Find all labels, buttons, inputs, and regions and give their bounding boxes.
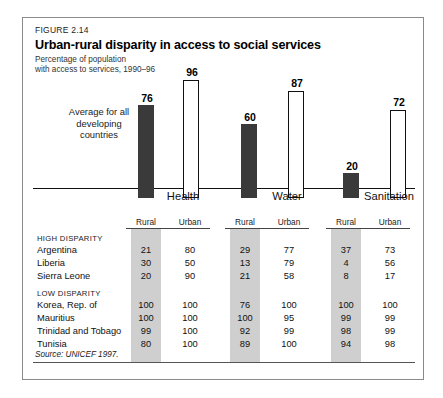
cell-trinidad-sanitation-urban: 99 — [375, 326, 405, 336]
chart-group-label-sanitation: Sanitation — [329, 190, 443, 202]
bar-value-health-rural: 76 — [130, 92, 164, 104]
cell-argentina-sanitation-rural: 37 — [331, 245, 361, 255]
cell-korea-sanitation-urban: 100 — [375, 300, 405, 310]
data-table: Rural Urban Rural Urban Rural Urban HIGH… — [23, 204, 425, 380]
cell-argentina-water-urban: 77 — [274, 245, 304, 255]
bar-value-water-urban: 87 — [280, 77, 314, 89]
cell-argentina-health-urban: 80 — [175, 245, 205, 255]
cell-mauritius-health-rural: 100 — [131, 313, 161, 323]
chart-annotation-average: Average for all developing countries — [53, 106, 145, 141]
cell-trinidad-water-urban: 99 — [274, 326, 304, 336]
cell-sierra-leone-health-urban: 90 — [175, 271, 205, 281]
cell-mauritius-sanitation-urban: 99 — [375, 313, 405, 323]
cell-liberia-health-rural: 30 — [131, 258, 161, 268]
bar-chart: Average for all developing countries 76 … — [23, 18, 425, 198]
bar-health-rural: 76 — [138, 105, 154, 198]
cell-liberia-health-urban: 50 — [175, 258, 205, 268]
cell-sierra-leone-water-urban: 58 — [274, 271, 304, 281]
section-label-low-disparity: LOW DISPARITY — [37, 289, 101, 298]
cell-mauritius-sanitation-rural: 99 — [331, 313, 361, 323]
cell-korea-health-urban: 100 — [175, 300, 205, 310]
column-header-water-rural: Rural — [223, 217, 267, 227]
cell-korea-sanitation-rural: 100 — [331, 300, 361, 310]
column-header-health-rural: Rural — [124, 217, 168, 227]
cell-tunisia-health-urban: 100 — [175, 339, 205, 349]
section-label-high-disparity: HIGH DISPARITY — [37, 234, 103, 243]
bar-value-water-rural: 60 — [233, 111, 267, 123]
table-row-country-korea: Korea, Rep. of — [37, 300, 97, 310]
cell-trinidad-health-urban: 100 — [175, 326, 205, 336]
cell-liberia-sanitation-rural: 4 — [331, 258, 361, 268]
cell-liberia-water-rural: 13 — [230, 258, 260, 268]
source-rule — [33, 362, 415, 363]
cell-mauritius-health-urban: 100 — [175, 313, 205, 323]
cell-argentina-health-rural: 21 — [131, 245, 161, 255]
bar-sanitation-urban: 72 — [390, 110, 406, 198]
bar-water-urban: 87 — [288, 91, 304, 198]
table-row-country-liberia: Liberia — [37, 258, 65, 268]
bar-water-rural: 60 — [241, 124, 257, 198]
cell-tunisia-water-urban: 100 — [274, 339, 304, 349]
cell-sierra-leone-water-rural: 21 — [230, 271, 260, 281]
cell-tunisia-health-rural: 80 — [131, 339, 161, 349]
table-row-country-trinidad-and-tobago: Trinidad and Tobago — [37, 326, 121, 336]
cell-tunisia-sanitation-rural: 94 — [331, 339, 361, 349]
column-header-sanitation-rural: Rural — [324, 217, 368, 227]
cell-sierra-leone-sanitation-urban: 17 — [375, 271, 405, 281]
column-header-health-urban: Urban — [168, 217, 212, 227]
cell-liberia-sanitation-urban: 56 — [375, 258, 405, 268]
table-row-country-argentina: Argentina — [37, 245, 77, 255]
bar-value-sanitation-rural: 20 — [335, 160, 369, 172]
rule-sanitation — [326, 228, 410, 229]
source-note: Source: UNICEF 1997. — [35, 350, 119, 359]
figure-frame: FIGURE 2.14 Urban-rural disparity in acc… — [22, 17, 424, 380]
cell-korea-water-urban: 100 — [274, 300, 304, 310]
cell-tunisia-water-rural: 89 — [230, 339, 260, 349]
bar-value-sanitation-urban: 72 — [382, 96, 416, 108]
cell-trinidad-health-rural: 99 — [131, 326, 161, 336]
rule-water — [225, 228, 309, 229]
table-row-country-sierra-leone: Sierra Leone — [37, 271, 90, 281]
table-row-country-mauritius: Mauritius — [37, 313, 75, 323]
table-row-country-tunisia: Tunisia — [37, 339, 67, 349]
cell-liberia-water-urban: 79 — [274, 258, 304, 268]
cell-mauritius-water-urban: 95 — [274, 313, 304, 323]
column-header-water-urban: Urban — [267, 217, 311, 227]
cell-sierra-leone-sanitation-rural: 8 — [331, 271, 361, 281]
column-header-sanitation-urban: Urban — [368, 217, 412, 227]
chart-group-label-health: Health — [123, 190, 243, 202]
bar-health-urban: 96 — [183, 80, 199, 198]
cell-argentina-water-rural: 29 — [230, 245, 260, 255]
cell-trinidad-sanitation-rural: 98 — [331, 326, 361, 336]
cell-sierra-leone-health-rural: 20 — [131, 271, 161, 281]
cell-tunisia-sanitation-urban: 98 — [375, 339, 405, 349]
bar-value-health-urban: 96 — [175, 66, 209, 78]
cell-argentina-sanitation-urban: 73 — [375, 245, 405, 255]
cell-korea-health-rural: 100 — [131, 300, 161, 310]
cell-mauritius-water-rural: 100 — [230, 313, 260, 323]
cell-korea-water-rural: 76 — [230, 300, 260, 310]
rule-health — [126, 228, 210, 229]
cell-trinidad-water-rural: 92 — [230, 326, 260, 336]
